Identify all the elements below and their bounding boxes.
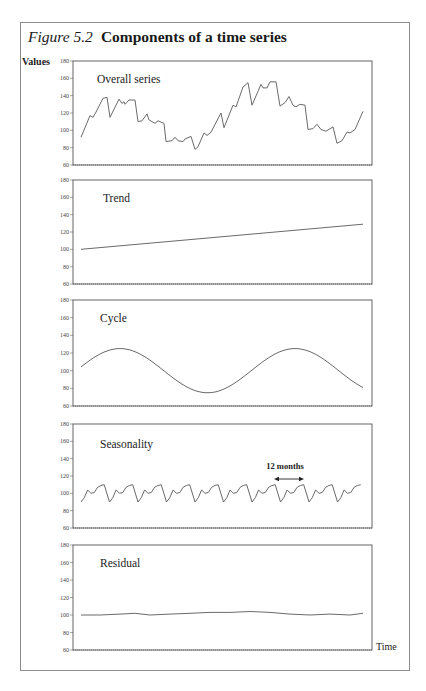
y-tick-label: 100 <box>60 127 69 133</box>
y-tick-label: 80 <box>63 264 69 270</box>
arrow-head-left-icon <box>274 477 279 481</box>
series-line <box>81 349 363 393</box>
panel-trend: 6080100120140160180Trend <box>60 177 372 287</box>
y-tick-label: 60 <box>63 647 69 653</box>
panel-residual: 6080100120140160180Residual <box>60 542 372 653</box>
y-tick-label: 100 <box>60 368 69 374</box>
series-line <box>81 485 361 502</box>
arrow-head-right-icon <box>299 477 304 481</box>
series-line <box>81 612 363 616</box>
y-tick-label: 100 <box>60 490 69 496</box>
y-tick-label: 120 <box>60 595 69 601</box>
panel-overall-series: 6080100120140160180Overall series <box>60 58 372 168</box>
y-tick-label: 140 <box>60 212 69 218</box>
y-tick-label: 180 <box>60 542 69 548</box>
y-tick-label: 160 <box>60 194 69 200</box>
y-tick-label: 100 <box>60 246 69 252</box>
y-tick-label: 180 <box>60 421 69 427</box>
panel-title: Residual <box>100 557 140 569</box>
y-tick-label: 120 <box>60 350 69 356</box>
y-tick-label: 160 <box>60 560 69 566</box>
y-tick-label: 140 <box>60 577 69 583</box>
series-line <box>81 82 363 150</box>
y-tick-label: 80 <box>63 385 69 391</box>
y-tick-label: 120 <box>60 229 69 235</box>
series-line <box>81 224 363 249</box>
panel-cycle: 6080100120140160180Cycle <box>60 297 372 409</box>
y-tick-label: 180 <box>60 177 69 183</box>
y-tick-label: 160 <box>60 438 69 444</box>
panel-title: Trend <box>103 192 130 204</box>
y-tick-label: 120 <box>60 110 69 116</box>
panel-seasonality: 6080100120140160180Seasonality12 months <box>60 421 372 531</box>
panel-title: Overall series <box>97 73 161 85</box>
y-tick-label: 100 <box>60 612 69 618</box>
charts-canvas: 6080100120140160180Overall series6080100… <box>0 0 426 691</box>
y-tick-label: 160 <box>60 75 69 81</box>
y-tick-label: 140 <box>60 93 69 99</box>
annotation-label: 12 months <box>266 461 304 471</box>
y-tick-label: 80 <box>63 508 69 514</box>
y-tick-label: 80 <box>63 145 69 151</box>
panel-title: Seasonality <box>100 438 153 451</box>
y-tick-label: 180 <box>60 58 69 64</box>
y-tick-label: 180 <box>60 297 69 303</box>
y-tick-label: 60 <box>63 162 69 168</box>
y-tick-label: 120 <box>60 473 69 479</box>
y-tick-label: 140 <box>60 456 69 462</box>
y-tick-label: 60 <box>63 403 69 409</box>
y-tick-label: 60 <box>63 525 69 531</box>
y-tick-label: 60 <box>63 281 69 287</box>
y-tick-label: 80 <box>63 630 69 636</box>
panel-title: Cycle <box>100 312 127 325</box>
y-tick-label: 140 <box>60 332 69 338</box>
y-tick-label: 160 <box>60 315 69 321</box>
